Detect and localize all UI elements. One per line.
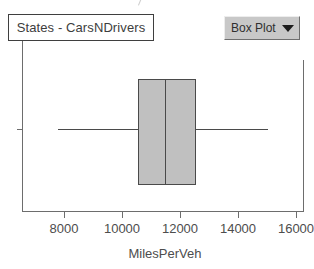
plot-type-value: Box Plot [231,21,279,35]
series-label-text: States - CarsNDrivers [17,20,146,35]
chevron-down-icon [282,25,294,32]
x-tick-label-8000: 8000 [50,221,79,236]
chart-canvas: 8000 10000 12000 14000 16000 MilesPerVeh… [0,0,314,269]
series-label-leader-line [22,41,23,60]
x-tick-label-16000: 16000 [278,221,314,236]
x-tick-label-10000: 10000 [104,221,140,236]
x-axis-title: MilesPerVeh [129,246,202,261]
series-label-box[interactable]: States - CarsNDrivers [8,14,154,41]
x-tick-label-12000: 12000 [162,221,198,236]
x-tick-label-14000: 14000 [220,221,256,236]
box-body [139,80,196,185]
x-axis-ticks [65,212,297,218]
plot-type-dropdown[interactable]: Box Plot [224,16,300,40]
